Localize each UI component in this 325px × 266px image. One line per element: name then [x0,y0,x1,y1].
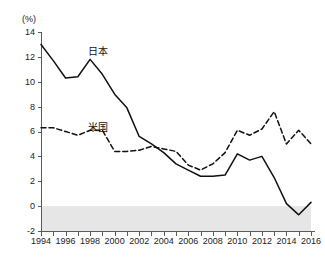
x-tick-label: 2016 [301,236,321,246]
x-tick-label: 1998 [80,236,100,246]
line-chart-plot: 14121086420-2 19941996199820002002200420… [0,0,325,266]
x-tick-label: 1996 [56,236,76,246]
x-tick-label: 2002 [129,236,149,246]
x-tick-label: 2012 [252,236,272,246]
chart-container: (%) 14121086420-2 1994199619982000200220… [0,0,325,266]
series-label-1: 日本 [88,45,108,57]
series-line-1 [41,44,311,214]
x-tick-label: 2008 [203,236,223,246]
series-label-2: 米国 [88,121,108,133]
y-tick-label: 6 [30,126,35,136]
x-tick-label: 2014 [276,236,296,246]
x-tick-label: 2000 [105,236,125,246]
x-tick-label: 2010 [227,236,247,246]
y-tick-label: 14 [25,27,35,37]
y-tick-label: 10 [25,77,35,87]
y-axis-ticks: 14121086420-2 [25,27,42,236]
series-annotations: 日本米国 [88,45,108,133]
x-tick-label: 1994 [31,236,51,246]
y-tick-label: 4 [30,151,35,161]
y-tick-label: -2 [27,226,35,236]
x-tick-label: 2004 [154,236,174,246]
y-tick-label: 12 [25,52,35,62]
x-axis-ticks: 1994199619982000200220042006200820102012… [31,232,321,247]
y-tick-label: 0 [30,201,35,211]
negative-shaded-band [41,206,311,231]
y-tick-label: 8 [30,102,35,112]
x-tick-label: 2006 [178,236,198,246]
data-series-group [41,44,311,214]
y-tick-label: 2 [30,176,35,186]
series-line-2 [41,112,311,170]
